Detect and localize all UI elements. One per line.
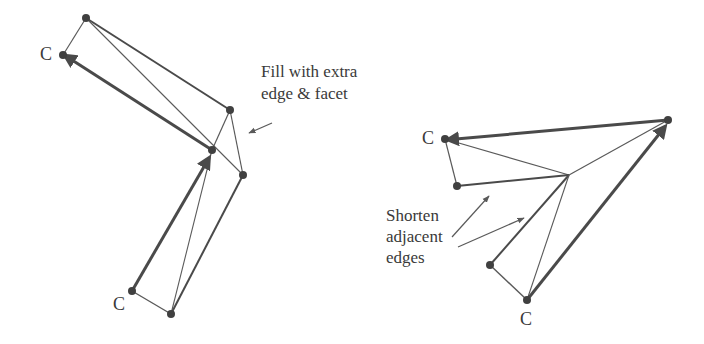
- edge: [171, 150, 212, 314]
- corner-label-c: C: [113, 294, 125, 314]
- direction-arrow: [132, 165, 205, 291]
- edge: [86, 18, 243, 175]
- vertex: [239, 171, 247, 179]
- vertex: [664, 116, 672, 124]
- vertex: [523, 296, 531, 304]
- vertex: [167, 310, 175, 318]
- diagram-canvas: [0, 0, 704, 344]
- shortened-edge: [490, 175, 569, 265]
- annotation-arrow: [452, 196, 489, 237]
- edge: [132, 291, 171, 314]
- edge: [527, 175, 569, 300]
- annotation-line-3: edges: [386, 248, 425, 268]
- annotation-arrow: [249, 123, 272, 133]
- shortened-edge: [457, 175, 569, 186]
- vertex: [486, 261, 494, 269]
- extra-edge: [230, 110, 243, 175]
- corner-label-c: C: [422, 128, 434, 148]
- vertex: [208, 146, 216, 154]
- vertex: [59, 51, 67, 59]
- edge: [86, 18, 230, 110]
- edge: [445, 139, 457, 186]
- annotation-line-2: adjacent: [386, 227, 443, 247]
- edge: [63, 18, 86, 55]
- edge: [445, 139, 569, 175]
- edge: [171, 175, 243, 314]
- annotation-line-2: edge & facet: [261, 84, 348, 104]
- corner-label-c: C: [40, 44, 52, 64]
- corner-label-c: C: [520, 309, 532, 329]
- annotation-line-1: Shorten: [386, 206, 439, 226]
- edge: [490, 265, 527, 300]
- annotation-line-1: Fill with extra: [261, 62, 357, 82]
- direction-arrow: [527, 133, 660, 300]
- direction-arrow: [456, 120, 668, 139]
- vertex: [453, 182, 461, 190]
- left-mesh: [59, 14, 272, 318]
- vertex: [128, 287, 136, 295]
- right-mesh: [441, 116, 672, 304]
- vertex: [441, 135, 449, 143]
- extra-edge: [212, 110, 230, 150]
- annotation-arrow: [458, 218, 524, 247]
- vertex: [226, 106, 234, 114]
- vertex: [82, 14, 90, 22]
